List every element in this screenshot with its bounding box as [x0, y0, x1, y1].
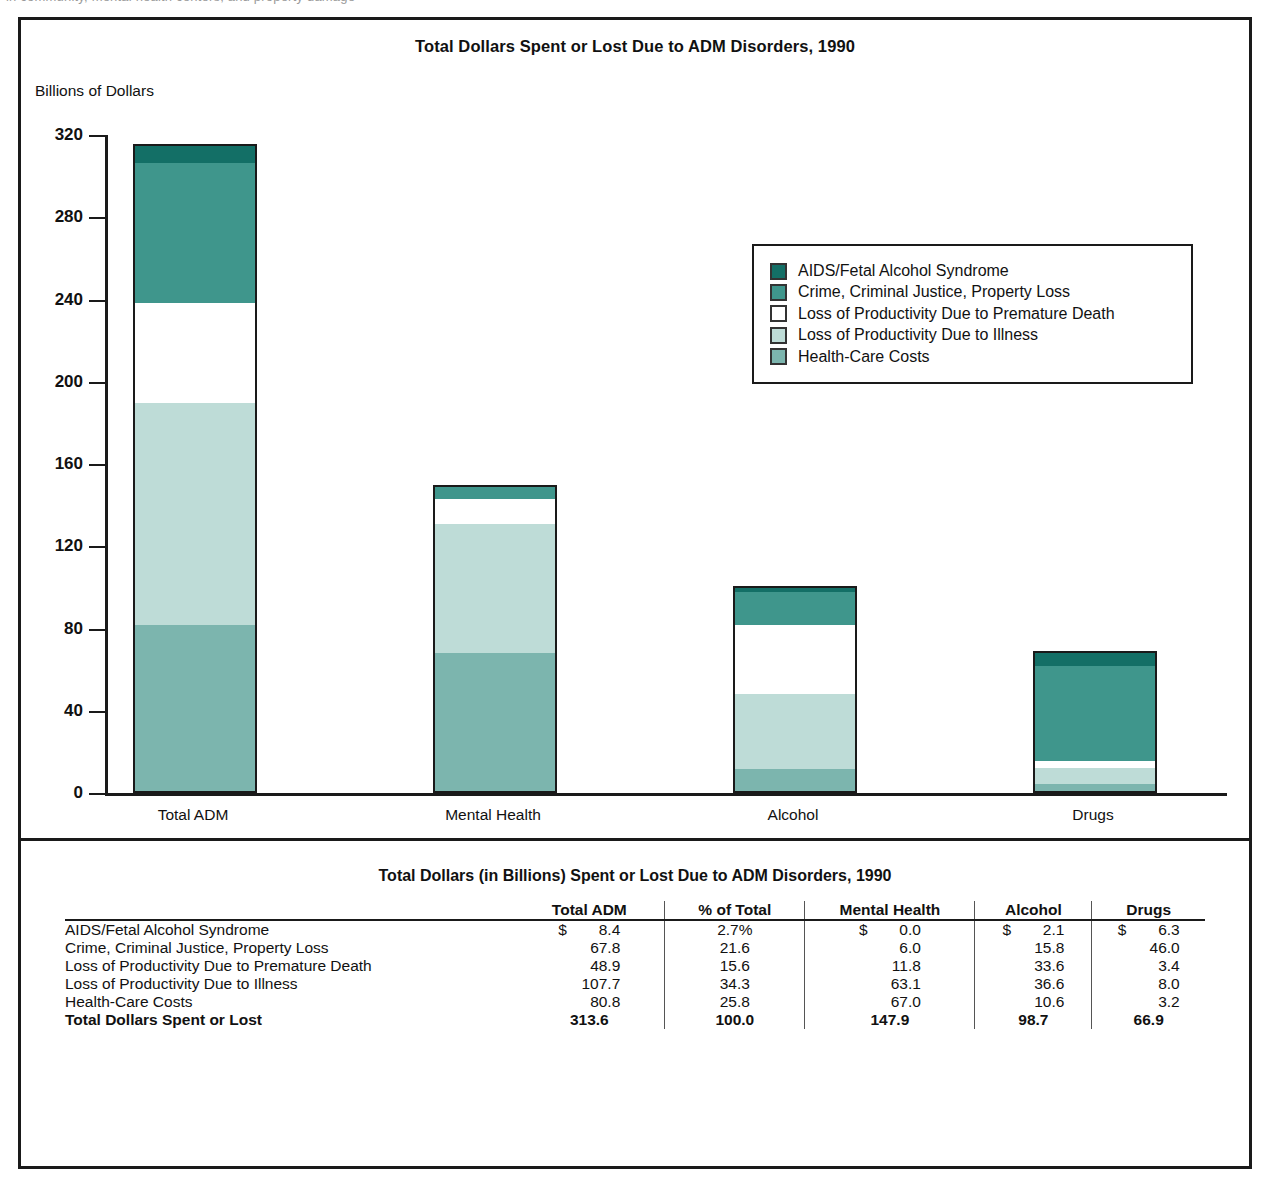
x-tick-label: Total ADM [83, 806, 303, 824]
legend-swatch-icon [770, 327, 787, 344]
y-tick-mark [89, 464, 105, 466]
table-cell: 15.8 [975, 939, 1092, 957]
data-table: Total ADM % of Total Mental Health Alcoh… [65, 901, 1205, 1029]
table-cell: $0.0 [805, 920, 975, 939]
y-tick-label: 320 [21, 125, 83, 145]
table-cell: 107.7 [514, 975, 664, 993]
plot-area: 04080120160200240280320 Total ADMMental … [21, 20, 1249, 838]
table-title: Total Dollars (in Billions) Spent or Los… [21, 867, 1249, 885]
col-header-blank [65, 901, 514, 920]
table-row: Health-Care Costs80.825.867.010.63.2 [65, 993, 1205, 1011]
y-tick-mark [89, 546, 105, 548]
legend-label: Loss of Productivity Due to Illness [798, 326, 1038, 344]
legend-swatch-icon [770, 348, 787, 365]
col-header-drugs: Drugs [1092, 901, 1205, 920]
legend-item: Crime, Criminal Justice, Property Loss [770, 283, 1177, 301]
page-top-text: in community, mental health centers, and… [6, 0, 355, 4]
bar-segment [1035, 784, 1155, 791]
legend-label: Crime, Criminal Justice, Property Loss [798, 283, 1070, 301]
bar-segment [435, 653, 555, 791]
page-top-text-sliver: in community, mental health centers, and… [0, 0, 1270, 14]
table-cell: 6.0 [805, 939, 975, 957]
table-row: Loss of Productivity Due to Illness107.7… [65, 975, 1205, 993]
legend-swatch-icon [770, 263, 787, 280]
table-header-row: Total ADM % of Total Mental Health Alcoh… [65, 901, 1205, 920]
table-row-label: AIDS/Fetal Alcohol Syndrome [65, 920, 514, 939]
table-cell: 10.6 [975, 993, 1092, 1011]
table-row: Crime, Criminal Justice, Property Loss67… [65, 939, 1205, 957]
col-header-mental-health: Mental Health [805, 901, 975, 920]
table-cell: $2.1 [975, 920, 1092, 939]
y-tick-label: 200 [21, 372, 83, 392]
y-tick-label: 280 [21, 207, 83, 227]
bar-segment [135, 303, 255, 404]
bar-alcohol [733, 586, 857, 793]
table-cell: 34.3 [665, 975, 805, 993]
chart-legend: AIDS/Fetal Alcohol SyndromeCrime, Crimin… [752, 244, 1193, 384]
table-total-row: Total Dollars Spent or Lost313.6100.0147… [65, 1011, 1205, 1029]
y-tick-mark [89, 135, 105, 137]
table-cell: 36.6 [975, 975, 1092, 993]
bar-segment [735, 592, 855, 624]
y-tick-label: 80 [21, 619, 83, 639]
table-cell: 3.2 [1092, 993, 1205, 1011]
table-cell: 98.7 [975, 1011, 1092, 1029]
table-panel: Total Dollars (in Billions) Spent or Los… [21, 841, 1249, 1169]
table-cell: 2.7% [665, 920, 805, 939]
legend-swatch-icon [770, 284, 787, 301]
bar-segment [1035, 666, 1155, 761]
y-tick-label: 160 [21, 454, 83, 474]
x-tick-label: Drugs [983, 806, 1203, 824]
table-row-label: Crime, Criminal Justice, Property Loss [65, 939, 514, 957]
table-cell: 3.4 [1092, 957, 1205, 975]
bar-drugs [1033, 651, 1157, 793]
table-cell: 67.8 [514, 939, 664, 957]
table-cell: $8.4 [514, 920, 664, 939]
table-cell: 80.8 [514, 993, 664, 1011]
table-cell: 21.6 [665, 939, 805, 957]
y-tick-mark [89, 629, 105, 631]
col-header-pct-of-total: % of Total [665, 901, 805, 920]
bar-segment [435, 499, 555, 523]
table-row-label: Loss of Productivity Due to Illness [65, 975, 514, 993]
table-row: AIDS/Fetal Alcohol Syndrome$8.42.7%$0.0$… [65, 920, 1205, 939]
table-row-label: Loss of Productivity Due to Premature De… [65, 957, 514, 975]
table-cell: 66.9 [1092, 1011, 1205, 1029]
bar-segment [135, 146, 255, 163]
table-cell: $6.3 [1092, 920, 1205, 939]
table-body: AIDS/Fetal Alcohol Syndrome$8.42.7%$0.0$… [65, 920, 1205, 1029]
table-cell: 63.1 [805, 975, 975, 993]
bar-segment [135, 625, 255, 791]
bar-segment [135, 163, 255, 302]
bar-segment [1035, 768, 1155, 784]
table-cell: 48.9 [514, 957, 664, 975]
table-cell: 147.9 [805, 1011, 975, 1029]
figure-page: in community, mental health centers, and… [0, 0, 1270, 1191]
y-tick-mark [89, 793, 105, 795]
legend-label: AIDS/Fetal Alcohol Syndrome [798, 262, 1009, 280]
bar-segment [1035, 653, 1155, 666]
table-cell: 25.8 [665, 993, 805, 1011]
figure-frame: Total Dollars Spent or Lost Due to ADM D… [18, 17, 1252, 1169]
bar-total-adm [133, 144, 257, 793]
x-axis-line [105, 793, 1227, 796]
x-tick-label: Mental Health [383, 806, 603, 824]
bar-segment [735, 625, 855, 694]
table-cell: 11.8 [805, 957, 975, 975]
chart-panel: Total Dollars Spent or Lost Due to ADM D… [21, 20, 1249, 838]
table-cell: 46.0 [1092, 939, 1205, 957]
y-tick-label: 120 [21, 536, 83, 556]
y-tick-mark [89, 217, 105, 219]
bar-segment [735, 694, 855, 769]
y-tick-label: 40 [21, 701, 83, 721]
x-tick-label: Alcohol [683, 806, 903, 824]
legend-item: AIDS/Fetal Alcohol Syndrome [770, 262, 1177, 280]
legend-swatch-icon [770, 305, 787, 322]
bar-segment [435, 524, 555, 654]
y-tick-mark [89, 711, 105, 713]
y-tick-label: 0 [21, 783, 83, 803]
legend-item: Health-Care Costs [770, 348, 1177, 366]
table-cell: 100.0 [665, 1011, 805, 1029]
table-row-label: Health-Care Costs [65, 993, 514, 1011]
col-header-alcohol: Alcohol [975, 901, 1092, 920]
